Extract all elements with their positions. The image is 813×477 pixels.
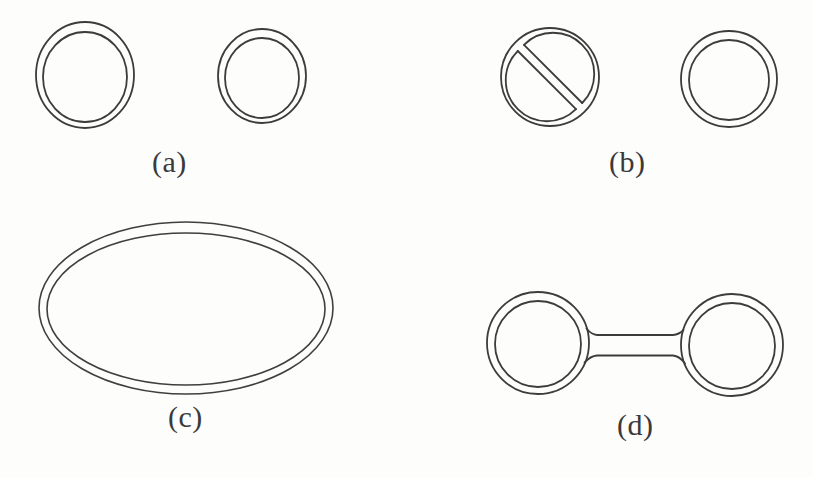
- panel-label-c: (c): [168, 400, 203, 434]
- panel-d-bridge-rail-bottom: [585, 356, 686, 364]
- panel-d-annulus-left-inner: [495, 301, 581, 387]
- panel-label-d: (d): [617, 408, 653, 442]
- panel-c-ellipse-annulus-inner: [47, 233, 325, 385]
- figure-canvas: (a) (b) (c) (d): [0, 0, 813, 477]
- panel-label-b: (b): [609, 145, 645, 179]
- panel-a-annulus-left-outer: [36, 22, 134, 128]
- panel-d-shapes: [487, 292, 783, 396]
- figure-vector-graphics: [0, 0, 813, 477]
- panel-a-annulus-right-inner: [225, 38, 299, 118]
- panel-a-shapes: [36, 22, 306, 128]
- panel-a-annulus-left-inner: [43, 32, 127, 122]
- panel-b-shapes: [501, 28, 777, 127]
- panel-d-annulus-left-outer: [487, 292, 589, 394]
- panel-b-no-entry-outer-circle: [501, 28, 599, 126]
- panel-d-bridge-rail-top: [587, 329, 684, 336]
- panel-c-ellipse-annulus-outer: [39, 222, 333, 394]
- panel-b-no-entry-strip-edge-lower: [518, 51, 576, 109]
- panel-b-annulus-right-outer: [681, 31, 777, 127]
- panel-b-no-entry-strip-edge-upper: [524, 45, 582, 103]
- panel-d-annulus-right-inner: [689, 303, 775, 389]
- panel-label-a: (a): [152, 145, 187, 179]
- panel-d-annulus-right-outer: [681, 294, 783, 396]
- panel-b-annulus-right-inner: [689, 40, 769, 120]
- panel-a-annulus-right-outer: [218, 29, 306, 123]
- panel-c-shapes: [39, 222, 333, 394]
